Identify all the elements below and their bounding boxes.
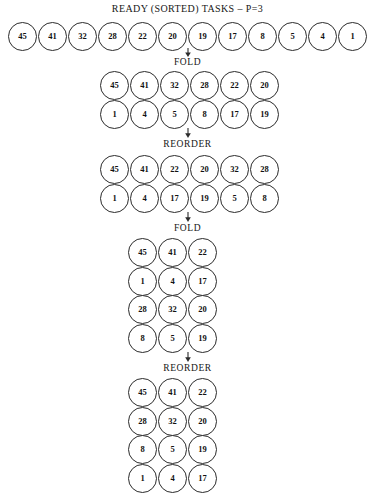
task-node-value: 17 [228, 32, 237, 41]
task-node: 45 [8, 22, 37, 51]
task-node-value: 8 [140, 445, 144, 454]
task-node: 20 [190, 155, 219, 184]
task-node-value: 32 [168, 417, 177, 426]
task-node: 8 [128, 324, 157, 353]
task-node: 17 [188, 267, 217, 296]
task-node: 4 [130, 100, 159, 129]
task-node-value: 22 [198, 248, 207, 257]
task-node-value: 20 [198, 305, 207, 314]
task-node: 20 [250, 71, 279, 100]
task-node-value: 19 [200, 194, 209, 203]
task-node-value: 28 [138, 305, 147, 314]
task-node-value: 19 [198, 445, 207, 454]
task-node-value: 41 [168, 248, 177, 257]
task-node-value: 20 [260, 81, 269, 90]
task-node: 22 [220, 71, 249, 100]
task-node-value: 5 [170, 334, 174, 343]
task-node: 32 [158, 295, 187, 324]
task-node-value: 17 [170, 194, 179, 203]
task-node-value: 4 [142, 194, 146, 203]
task-node-value: 19 [198, 32, 207, 41]
stage-fold-1: 45413228222014581719 [100, 71, 279, 129]
arrow-down-icon-2 [181, 128, 195, 138]
task-node: 20 [188, 407, 217, 436]
task-node: 4 [158, 464, 187, 493]
task-node-value: 20 [168, 32, 177, 41]
task-node: 17 [160, 184, 189, 213]
task-node-value: 41 [48, 32, 57, 41]
task-node: 8 [248, 22, 277, 51]
task-node: 8 [128, 435, 157, 464]
task-node: 20 [158, 22, 187, 51]
task-node: 28 [128, 407, 157, 436]
task-node-value: 17 [198, 474, 207, 483]
stage-reorder-2: 45412228322085191417 [128, 378, 217, 493]
task-node-value: 28 [138, 417, 147, 426]
task-node-value: 5 [232, 194, 236, 203]
task-node: 4 [308, 22, 337, 51]
task-node-value: 45 [138, 388, 147, 397]
task-node-value: 8 [262, 194, 266, 203]
task-node: 17 [188, 464, 217, 493]
task-node-value: 4 [170, 474, 174, 483]
task-node: 1 [100, 100, 129, 129]
task-node: 41 [38, 22, 67, 51]
task-node-value: 1 [112, 110, 116, 119]
task-node-value: 28 [200, 81, 209, 90]
stage-label-fold-2: FOLD [0, 223, 375, 233]
task-node-value: 32 [168, 305, 177, 314]
stage-label-fold-1: FOLD [0, 57, 375, 67]
task-node-value: 45 [110, 81, 119, 90]
task-node: 8 [190, 100, 219, 129]
task-node: 41 [130, 155, 159, 184]
task-node-value: 32 [78, 32, 87, 41]
stage-initial: 45413228222019178541 [8, 22, 367, 51]
task-node: 28 [128, 295, 157, 324]
task-node: 1 [128, 267, 157, 296]
task-node: 28 [98, 22, 127, 51]
task-node: 32 [68, 22, 97, 51]
task-node-value: 17 [198, 277, 207, 286]
task-node: 19 [188, 22, 217, 51]
task-node-value: 45 [138, 248, 147, 257]
task-node: 5 [158, 435, 187, 464]
task-node: 22 [160, 155, 189, 184]
task-node: 20 [188, 295, 217, 324]
task-node-value: 1 [112, 194, 116, 203]
task-node-value: 32 [230, 165, 239, 174]
task-node: 32 [158, 407, 187, 436]
task-node: 28 [250, 155, 279, 184]
task-node-value: 28 [108, 32, 117, 41]
task-node: 8 [250, 184, 279, 213]
task-node: 17 [220, 100, 249, 129]
task-node: 5 [220, 184, 249, 213]
task-node-value: 4 [142, 110, 146, 119]
stage-fold-2: 45412214172832208519 [128, 238, 217, 353]
task-node: 4 [130, 184, 159, 213]
task-node-value: 20 [200, 165, 209, 174]
task-node: 45 [100, 71, 129, 100]
task-node-value: 28 [260, 165, 269, 174]
task-node: 45 [100, 155, 129, 184]
task-node: 22 [188, 238, 217, 267]
task-node: 19 [190, 184, 219, 213]
task-node: 1 [100, 184, 129, 213]
task-node-value: 22 [138, 32, 147, 41]
task-node-value: 20 [198, 417, 207, 426]
stage-label-reorder-1: REORDER [0, 139, 375, 149]
task-node-value: 1 [140, 277, 144, 286]
task-node: 41 [158, 378, 187, 407]
task-node: 5 [158, 324, 187, 353]
task-node: 41 [158, 238, 187, 267]
task-node: 28 [190, 71, 219, 100]
task-node-value: 8 [202, 110, 206, 119]
task-node: 45 [128, 378, 157, 407]
arrow-down-icon-3 [181, 212, 195, 222]
task-node: 4 [158, 267, 187, 296]
page-title: READY (SORTED) TASKS – P=3 [0, 3, 375, 14]
task-node-value: 45 [110, 165, 119, 174]
task-node: 32 [220, 155, 249, 184]
task-node-value: 4 [170, 277, 174, 286]
task-node: 19 [188, 435, 217, 464]
